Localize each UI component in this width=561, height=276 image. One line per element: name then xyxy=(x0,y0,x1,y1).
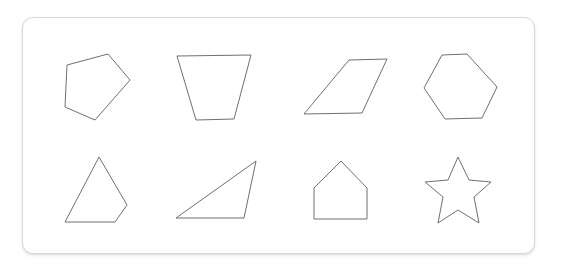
shape-canvas xyxy=(0,0,561,276)
shape-card xyxy=(22,17,535,254)
